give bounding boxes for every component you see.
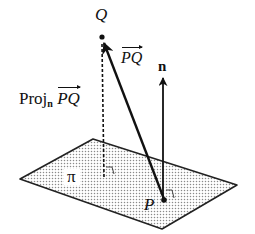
point-p-dot: [161, 197, 167, 203]
point-q-dot: [99, 34, 104, 39]
plane-pi: [20, 139, 237, 229]
label-point-p: P: [144, 196, 154, 213]
projection-subscript: n: [47, 98, 53, 109]
projection-vector-text: PQ: [57, 90, 80, 107]
label-point-q: Q: [95, 6, 107, 23]
label-vector-pq: PQ: [121, 50, 142, 66]
label-projection: Projn PQ: [19, 90, 80, 109]
label-normal-n: n: [158, 59, 166, 74]
vector-pq-text: PQ: [121, 50, 142, 66]
projection-prefix: Proj: [19, 89, 47, 108]
figure-canvas: [0, 0, 255, 234]
label-plane-pi: π: [67, 168, 76, 185]
